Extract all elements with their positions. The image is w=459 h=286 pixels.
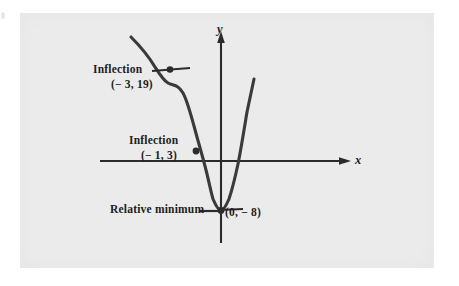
point-dot-relative-minimum — [218, 207, 225, 214]
annotation-inflection-1-text: Inflection — [93, 63, 142, 75]
annotation-relative-minimum-text: Relative minimum — [110, 203, 204, 215]
x-axis-label: x — [355, 153, 361, 168]
annotation-inflection-2-text: Inflection — [129, 134, 178, 146]
annotation-inflection-1: Inflection (− 3, 19) — [93, 60, 153, 90]
y-axis-label: y — [217, 22, 223, 37]
point-dot-inflection-2 — [193, 148, 200, 155]
figure-page: Inflection (− 3, 19) Inflection (− 1, 3)… — [0, 0, 459, 286]
annotation-inflection-1-coordinates: (− 3, 19) — [111, 78, 153, 90]
annotation-inflection-2: Inflection (− 1, 3) — [129, 131, 178, 161]
annotation-inflection-2-coordinates: (− 1, 3) — [141, 149, 178, 161]
graph-canvas — [0, 0, 459, 286]
annotation-relative-minimum-coordinates: (0, − 8) — [225, 206, 261, 218]
point-dot-inflection-1 — [167, 66, 174, 73]
